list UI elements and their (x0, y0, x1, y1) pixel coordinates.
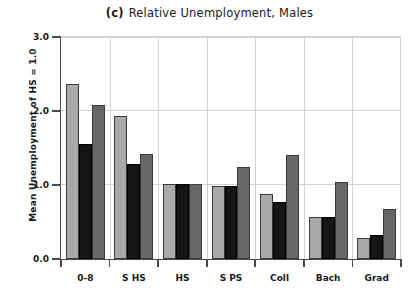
gridline-vertical (158, 37, 159, 259)
bar (66, 84, 79, 259)
bar (286, 155, 299, 259)
bar (383, 209, 396, 259)
x-tick-mark (400, 259, 402, 267)
x-tick-mark (206, 259, 208, 267)
y-axis-label: Mean Unemployment of HS = 1.0 (28, 40, 38, 230)
bar (370, 235, 383, 259)
gridline-vertical (352, 37, 353, 259)
bar (357, 238, 370, 259)
gridline-vertical (110, 37, 111, 259)
y-tick-label: 3.0 (33, 32, 49, 42)
x-tick-mark (157, 259, 159, 267)
y-tick-label: 2.0 (33, 106, 49, 116)
bar (225, 186, 238, 259)
chart-title: (c)Relative Unemployment, Males (0, 6, 419, 20)
bar (114, 116, 127, 259)
x-tick-label: HS (175, 273, 189, 283)
bar (335, 182, 348, 259)
gridline-horizontal (61, 36, 401, 37)
bar (212, 186, 225, 259)
bar (140, 154, 153, 259)
x-tick-mark (254, 259, 256, 267)
x-tick-label: S PS (220, 273, 243, 283)
plot-area: 0.01.02.03.0 0-8S HSHSS PSCollBachGrad (60, 37, 401, 260)
y-tick-mark (52, 36, 61, 38)
x-tick-label: Coll (270, 273, 289, 283)
bar (79, 144, 92, 259)
y-tick-mark (52, 110, 61, 112)
x-tick-mark (352, 259, 354, 267)
x-tick-label: 0-8 (77, 273, 93, 283)
y-tick-mark (52, 184, 61, 186)
x-tick-label: Grad (365, 273, 389, 283)
bar (189, 184, 202, 259)
gridline-vertical (255, 37, 256, 259)
bar (260, 194, 273, 259)
panel-label: (c) (106, 6, 124, 20)
gridline-horizontal (61, 110, 401, 111)
gridline-vertical (207, 37, 208, 259)
bar (176, 184, 189, 259)
bar (237, 167, 250, 260)
x-tick-label: Bach (316, 273, 341, 283)
x-tick-mark (60, 259, 62, 267)
bar (92, 105, 105, 259)
x-tick-mark (303, 259, 305, 267)
x-tick-mark (109, 259, 111, 267)
bar (322, 217, 335, 259)
gridline-vertical (304, 37, 305, 259)
x-tick-label: S HS (122, 273, 146, 283)
title-text: Relative Unemployment, Males (129, 6, 314, 20)
y-tick-label: 1.0 (33, 180, 49, 190)
y-tick-label: 0.0 (33, 254, 49, 264)
chart-figure: (c)Relative Unemployment, Males Mean Une… (0, 0, 419, 295)
bar (309, 217, 322, 259)
bar (127, 164, 140, 259)
bar (273, 202, 286, 259)
bar (163, 184, 176, 259)
